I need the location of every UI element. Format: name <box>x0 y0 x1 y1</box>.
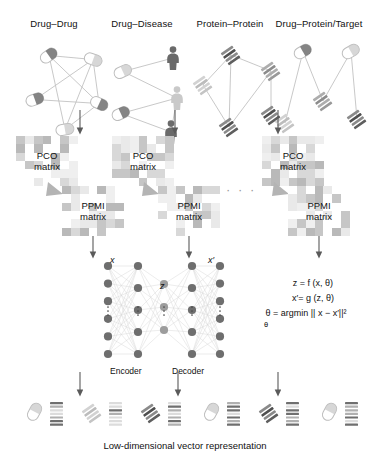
matrix-cell <box>271 136 280 144</box>
autoencoder-output-label: x′ <box>208 255 214 265</box>
ppmi-matrix-1: PPMI matrix <box>62 186 124 236</box>
autoencoder-node <box>134 328 142 336</box>
autoencoder-latent-label: z <box>160 281 165 291</box>
triangle-pco-to-ppmi-3 <box>272 182 289 196</box>
autoencoder-node <box>104 297 112 305</box>
matrix-cell <box>297 186 306 194</box>
matrix-cell <box>158 186 167 194</box>
person-icon <box>167 46 179 70</box>
autoencoder-diagram <box>100 258 228 364</box>
pco-matrix-2: PCO matrix <box>112 136 174 186</box>
matrix-cell <box>165 136 174 144</box>
autoencoder-node <box>104 350 112 358</box>
protein-icon <box>141 403 161 423</box>
pco-matrix-3: PCO matrix <box>262 136 324 186</box>
output-entity-icon <box>82 403 102 423</box>
network-title-drug-protein-target: Drug–Protein/Target <box>268 18 370 29</box>
autoencoder-svg <box>100 258 228 364</box>
matrix-cell <box>167 186 176 194</box>
matrix-cell <box>315 228 324 236</box>
layer-vertical-ellipsis <box>107 306 109 316</box>
autoencoder-node <box>216 280 224 288</box>
pco-matrix-label-line2: matrix <box>112 161 174 172</box>
network-node <box>112 63 133 81</box>
matrix-cell <box>97 228 106 236</box>
output-vector-item <box>262 398 302 432</box>
output-vector-item <box>203 398 243 432</box>
matrix-cell <box>323 186 332 194</box>
layer-vertical-ellipsis <box>137 306 139 316</box>
autoencoder-node <box>104 332 112 340</box>
output-vector-item <box>144 398 184 432</box>
output-vector-svg <box>85 398 125 432</box>
matrix-cell <box>297 228 306 236</box>
output-entity-icon <box>320 401 338 422</box>
autoencoder-node <box>188 350 196 358</box>
pco-matrix-label-line1: PCO <box>262 150 324 161</box>
pco-matrix-1: PCO matrix <box>16 136 78 186</box>
network-title-protein-protein: Protein–Protein <box>182 18 278 29</box>
ppmi-matrix-2: PPMI matrix <box>158 186 220 236</box>
output-vector-svg <box>321 398 361 432</box>
matrix-cell <box>185 186 194 194</box>
autoencoder-node <box>104 315 112 323</box>
matrix-cell <box>167 228 176 236</box>
matrix-cell <box>25 136 34 144</box>
matrix-cell <box>130 136 139 144</box>
matrix-cell <box>176 228 185 236</box>
matrix-cell <box>202 228 211 236</box>
matrix-cell <box>158 228 167 236</box>
matrix-cell <box>89 186 98 194</box>
pill-icon <box>340 42 361 61</box>
autoencoder-node <box>216 262 224 270</box>
output-vector-item <box>85 398 125 432</box>
pco-matrix-label-line2: matrix <box>262 161 324 172</box>
vector-barcode <box>286 402 299 426</box>
vector-barcode <box>168 402 181 426</box>
output-vector-item <box>26 398 66 432</box>
layer-vertical-ellipsis <box>219 306 221 316</box>
autoencoder-node <box>160 326 168 334</box>
output-vector-item <box>321 398 361 432</box>
matrix-cell <box>156 136 165 144</box>
network-node <box>292 42 313 61</box>
matrix-cell <box>262 136 271 144</box>
matrix-cell <box>139 136 148 144</box>
autoencoder-node <box>188 284 196 292</box>
matrix-cell <box>147 136 156 144</box>
matrix-cell <box>71 186 80 194</box>
network-title-drug-drug: Drug–Drug <box>6 18 102 29</box>
output-vector-svg <box>203 398 243 432</box>
ppmi-matrix-label-line1: PPMI <box>62 200 124 211</box>
matrix-cell <box>62 186 71 194</box>
ppmi-matrix-label-line1: PPMI <box>288 200 350 211</box>
matrix-cell <box>306 228 315 236</box>
network-node <box>340 42 361 61</box>
network-node <box>167 46 179 70</box>
autoencoder-node <box>134 262 142 270</box>
arrow-group-autoencoder-to-output <box>0 372 370 400</box>
matrix-cell <box>289 136 298 144</box>
matrix-cell <box>115 228 124 236</box>
triangle-pco-to-ppmi-2 <box>142 182 159 196</box>
pco-matrix-label-line1: PCO <box>16 150 78 161</box>
matrix-cell <box>121 136 130 144</box>
equation-block: z = f (x, θ) x′= g (z, θ) θ = argmin || … <box>244 276 368 332</box>
matrix-cell <box>332 228 341 236</box>
vector-barcode <box>227 402 240 426</box>
pill-icon <box>25 401 43 422</box>
matrix-cell <box>306 136 315 144</box>
pco-matrix-label-line2: matrix <box>16 161 78 172</box>
autoencoder-node <box>216 315 224 323</box>
matrix-cell <box>211 228 220 236</box>
matrix-cell <box>297 136 306 144</box>
output-vector-svg <box>144 398 184 432</box>
vector-barcode <box>345 402 358 426</box>
pill-icon <box>320 401 338 422</box>
autoencoder-node <box>134 350 142 358</box>
matrix-cell <box>323 228 332 236</box>
vector-barcode <box>50 402 63 426</box>
network-title-drug-disease: Drug–Disease <box>92 18 192 29</box>
matrix-cell <box>80 228 89 236</box>
matrix-cell <box>115 186 124 194</box>
